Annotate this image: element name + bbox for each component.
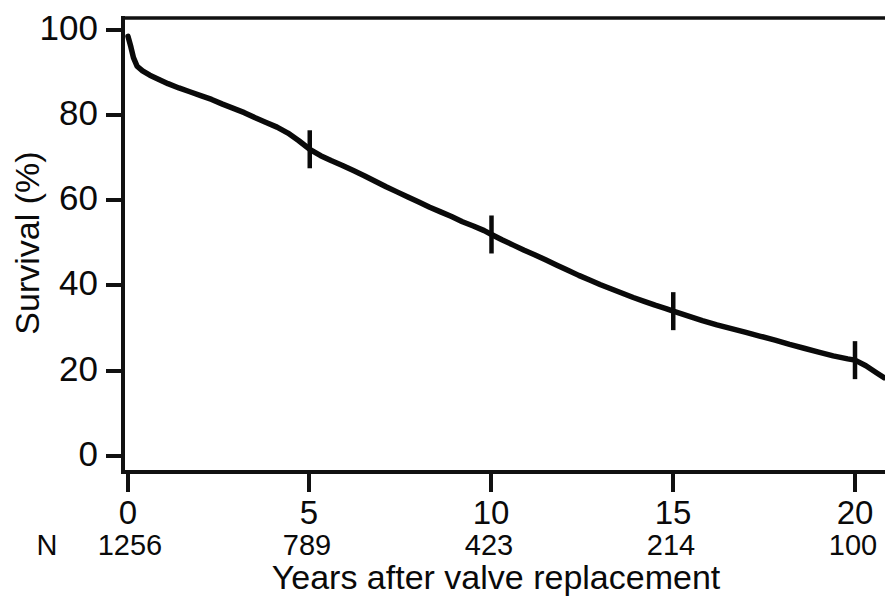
- y-axis-tick-labels: 100 80 60 40 20 0: [40, 8, 98, 473]
- n-row-label: N: [37, 529, 58, 561]
- y-tick-label-100: 100: [40, 8, 98, 47]
- n-value-at-20: 100: [829, 529, 877, 561]
- y-tick-label-80: 80: [59, 93, 98, 132]
- x-tick-label-15: 15: [655, 494, 692, 531]
- x-tick-label-20: 20: [837, 494, 874, 531]
- chart-canvas: 100 80 60 40 20 0 0 5 10 15 20 N 1256 7: [0, 0, 885, 597]
- y-tick-label-40: 40: [59, 263, 98, 302]
- x-axis-title: Years after valve replacement: [272, 558, 721, 596]
- x-axis-ticks: [128, 472, 855, 492]
- n-value-at-0: 1256: [98, 529, 163, 561]
- n-value-at-10: 423: [465, 529, 513, 561]
- y-tick-label-0: 0: [79, 434, 98, 473]
- y-axis-title: Survival (%): [8, 151, 46, 334]
- x-axis-tick-labels: 0 5 10 15 20: [119, 494, 874, 531]
- plot-frame: [123, 18, 885, 472]
- n-value-at-5: 789: [283, 529, 331, 561]
- n-value-at-15: 214: [647, 529, 695, 561]
- y-tick-label-20: 20: [59, 349, 98, 388]
- x-tick-label-0: 0: [119, 494, 137, 531]
- numbers-at-risk-row: N 1256 789 423 214 100: [37, 529, 878, 561]
- x-tick-label-10: 10: [473, 494, 510, 531]
- x-tick-label-5: 5: [300, 494, 318, 531]
- y-tick-label-60: 60: [59, 178, 98, 217]
- y-axis-ticks: [106, 30, 123, 456]
- survival-curve-line: [128, 36, 884, 377]
- survival-chart-figure: 100 80 60 40 20 0 0 5 10 15 20 N 1256 7: [0, 0, 885, 597]
